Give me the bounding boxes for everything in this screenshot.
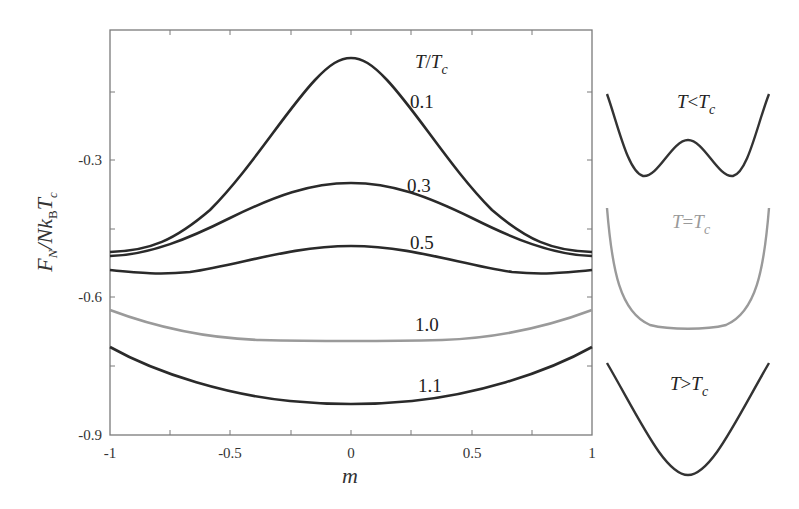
inset-critical: T=Tc (607, 208, 769, 329)
y-tick-label: -0.9 (78, 427, 102, 443)
y-ticks (110, 92, 592, 366)
curve-label-0.5: 0.5 (410, 232, 434, 253)
curve-label-1.1: 1.1 (418, 375, 442, 396)
curve-t-0.1 (110, 58, 592, 252)
x-tick-label: 0 (347, 445, 355, 461)
inset-above-critical: T>Tc (607, 363, 769, 475)
plot-frame (110, 30, 592, 435)
curve-t-0.5 (110, 246, 592, 273)
inset-below-critical: T<Tc (607, 91, 769, 176)
x-axis-title: m (342, 463, 358, 488)
x-tick-label: -0.5 (218, 445, 242, 461)
y-axis-title: FN/NkBTc (32, 192, 60, 273)
free-energy-figure: -0.3 -0.6 -0.9 -1 -0.5 0 0.5 1 m FN/NkBT… (0, 0, 799, 509)
inset-label-above: T>Tc (670, 373, 709, 399)
x-ticks (170, 30, 532, 435)
curve-t-1.0 (110, 310, 592, 341)
curve-label-1.0: 1.0 (415, 314, 439, 335)
inset-label-below: T<Tc (677, 91, 716, 117)
curve-label-0.3: 0.3 (407, 175, 431, 196)
y-tick-label: -0.6 (78, 289, 102, 305)
x-tick-label: 1 (588, 445, 596, 461)
curve-label-0.1: 0.1 (410, 91, 434, 112)
legend-title: T/Tc (415, 51, 448, 77)
x-tick-label: 0.5 (463, 445, 482, 461)
curve-t-1.1 (110, 347, 592, 404)
x-tick-label: -1 (104, 445, 117, 461)
y-tick-label: -0.3 (78, 152, 102, 168)
inset-label-critical: T=Tc (672, 211, 711, 237)
